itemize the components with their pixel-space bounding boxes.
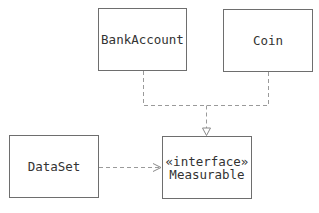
class-name: Coin — [253, 34, 283, 47]
class-name: BankAccount — [101, 33, 184, 46]
class-dataset: DataSet — [9, 135, 99, 198]
class-coin: Coin — [223, 9, 313, 72]
class-name: DataSet — [28, 160, 81, 173]
uml-class-diagram: BankAccount Coin DataSet «interface» Mea… — [0, 0, 319, 213]
bankaccount-realization-line — [144, 71, 207, 106]
class-name: Measurable — [169, 168, 244, 181]
coin-realization-line — [207, 72, 269, 106]
class-bankaccount: BankAccount — [98, 8, 187, 71]
interface-stereotype: «interface» — [166, 155, 249, 168]
hollow-triangle-arrowhead-icon — [203, 128, 211, 136]
interface-measurable: «interface» Measurable — [162, 136, 252, 199]
